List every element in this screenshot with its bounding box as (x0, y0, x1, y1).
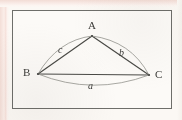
vertex-label-b: B (23, 67, 30, 78)
spherical-triangle-drawing (0, 0, 182, 120)
triangle-arcs (38, 36, 149, 85)
side-label-c: c (58, 45, 62, 55)
chord-BC (38, 74, 149, 75)
vertex-dot-B (37, 73, 39, 75)
vertex-label-c: C (155, 69, 162, 80)
side-label-b: b (119, 48, 124, 58)
vertex-dots (37, 35, 150, 76)
chord-BA (38, 36, 92, 74)
side-label-a: a (88, 81, 93, 91)
triangle-chords (38, 36, 149, 75)
arc-side-a (38, 74, 149, 85)
vertex-dot-A (91, 35, 93, 37)
vertex-dot-C (148, 74, 150, 76)
vertex-label-a: A (88, 20, 96, 31)
scanned-figure-page: A B C a b c (0, 0, 182, 120)
